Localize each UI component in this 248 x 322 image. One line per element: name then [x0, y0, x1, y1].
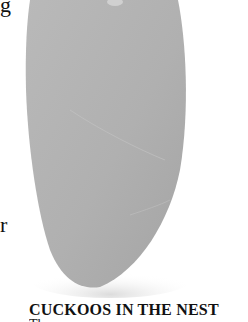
book-page: g r CUCKOOS IN THE NEST The...: [0, 0, 248, 322]
egg-photo: [0, 0, 248, 300]
egg-shape: [26, 0, 186, 288]
margin-letter-mid: r: [0, 214, 7, 236]
body-text-cut: The...: [29, 317, 61, 322]
margin-letter-top: g: [0, 0, 11, 16]
